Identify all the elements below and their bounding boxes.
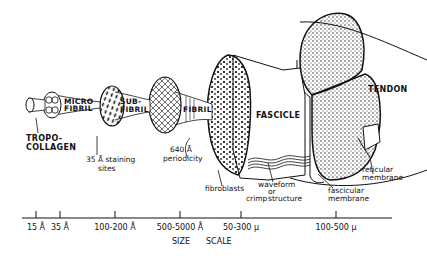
scale-tick-label: 500-5000 Å [157, 221, 204, 232]
size-label: SIZE [172, 237, 190, 246]
crimp-label: crimp [246, 194, 268, 203]
scale-tick-label: 50-300 μ [223, 223, 259, 232]
scale-tick-label: 100-200 Å [94, 221, 136, 232]
tendon-hierarchy-diagram: MICRO FIBRIL SUB- FIBRIL FIBRIL FASCICLE… [0, 0, 427, 265]
tropocollagen-label: TROPO- [26, 134, 62, 143]
fibril-label: FIBRIL [183, 105, 212, 114]
size-scale-axis: 15 Å35 Å100-200 Å500-5000 Å50-300 μ100-5… [22, 211, 392, 232]
staining-sites-label: 35 Å staining [86, 155, 136, 164]
periodicity-label: 640 Å [170, 145, 193, 154]
scale-tick-label: 15 Å [27, 221, 46, 232]
waveform-label: waveform [258, 180, 295, 189]
periodicity-label-2: periodicity [163, 154, 203, 163]
tendon-cross-section [297, 13, 380, 183]
fascicular-membrane-label-2: membrane [328, 194, 369, 203]
structure-label: structure [268, 194, 302, 203]
tendon-label: TENDON [368, 85, 408, 94]
scale-tick-label: 100-500 μ [315, 223, 356, 232]
tropocollagen-label-2: COLLAGEN [26, 143, 76, 152]
fibroblasts-label: fibroblasts [205, 184, 244, 193]
scale-label: SCALE [206, 237, 232, 246]
scale-tick-label: 35 Å [51, 221, 70, 232]
reticular-membrane-label-2: membrane [362, 173, 403, 182]
staining-sites-label-2: sites [98, 164, 116, 173]
subfibril-label-2: FIBRIL [120, 105, 149, 114]
microfibril-label-2: FIBRIL [64, 104, 93, 113]
fascicle-label: FASCICLE [256, 111, 300, 120]
tropocollagen [26, 98, 45, 112]
